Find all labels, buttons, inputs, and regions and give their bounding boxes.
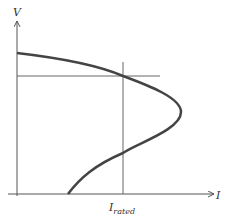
vi-diagram: V I Irated: [0, 0, 231, 219]
vi-curve: [17, 53, 181, 194]
y-axis-label: V: [13, 6, 22, 19]
rated-current-label: Irated: [108, 201, 135, 216]
x-axis-label: I: [215, 189, 221, 202]
